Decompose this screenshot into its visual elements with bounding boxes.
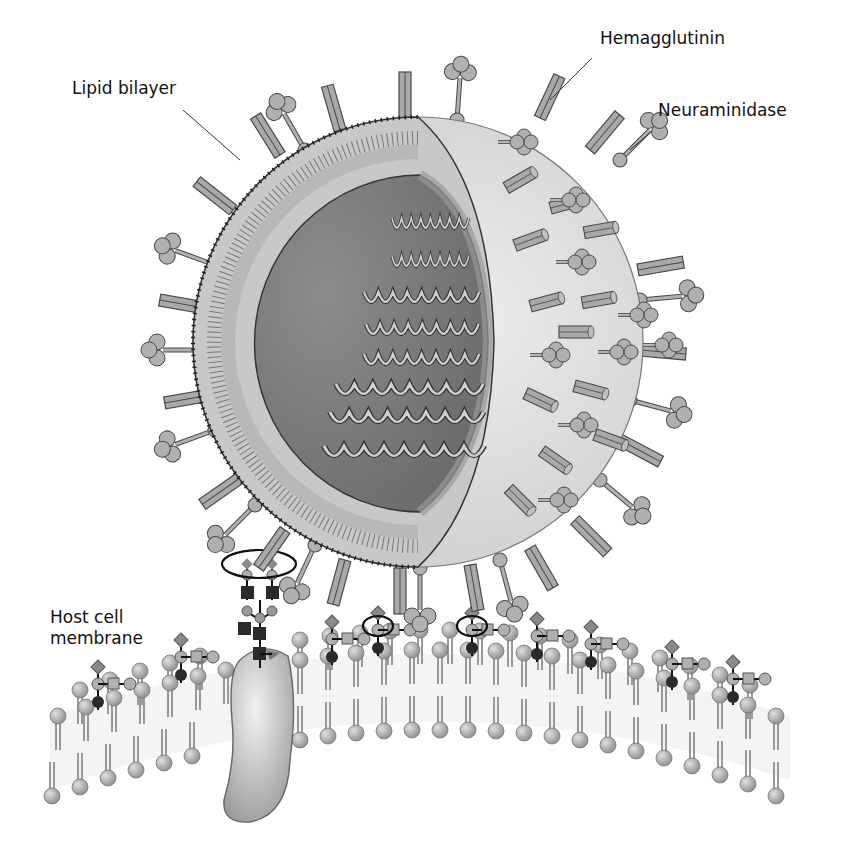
lipid-bilayer-label: Lipid bilayer	[72, 78, 176, 99]
influenza-virion	[141, 55, 705, 632]
neuraminidase-leader	[630, 131, 652, 150]
diagram-canvas	[0, 0, 842, 859]
hemagglutinin-label: Hemagglutinin	[600, 28, 725, 49]
neuraminidase-label: Neuraminidase	[658, 100, 787, 121]
host-cell-membrane-label-line1: Host cell	[50, 607, 123, 628]
host-cell-membrane	[44, 550, 790, 822]
influenza-diagram: Hemagglutinin Neuraminidase Lipid bilaye…	[0, 0, 842, 859]
lipid-bilayer-leader	[183, 110, 240, 160]
host-cell-membrane-label-line2: membrane	[50, 628, 143, 649]
